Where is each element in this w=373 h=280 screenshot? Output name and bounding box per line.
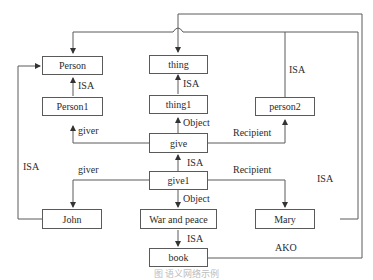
edge-label-john-person: ISA bbox=[23, 161, 39, 172]
edge-label-give1-war: Object bbox=[183, 193, 210, 204]
node-person: Person bbox=[42, 56, 103, 75]
edge-label-give1-mary: Recipient bbox=[233, 164, 271, 175]
node-person1: Person1 bbox=[42, 97, 103, 116]
edge-label-give-person1: giver bbox=[78, 125, 99, 136]
edge-label-give1-john: giver bbox=[78, 164, 99, 175]
node-give: give bbox=[149, 133, 208, 153]
node-mary: Mary bbox=[255, 209, 315, 229]
node-john: John bbox=[42, 209, 102, 229]
edge-label-give1-give: ISA bbox=[187, 157, 203, 168]
edge-label-person1-person: ISA bbox=[78, 80, 94, 91]
node-book: book bbox=[149, 248, 208, 267]
node-person2: person2 bbox=[255, 97, 315, 116]
edge-label-person2-person: ISA bbox=[289, 64, 305, 75]
edge-label-war-book: ISA bbox=[187, 233, 203, 244]
edge-label-give-person2: Recipient bbox=[233, 127, 271, 138]
figure-caption: 图 语义网络示例 bbox=[0, 267, 373, 280]
edge-label-mary-person: ISA bbox=[317, 173, 333, 184]
node-war-and-peace: War and peace bbox=[140, 209, 217, 229]
node-thing1: thing1 bbox=[149, 95, 208, 114]
edge-label-thing1-thing: ISA bbox=[183, 78, 199, 89]
node-thing: thing bbox=[149, 55, 208, 74]
node-give1: give1 bbox=[149, 171, 208, 190]
edge-label-book-thing: AKO bbox=[275, 242, 297, 253]
edge-label-give-thing1: Object bbox=[183, 117, 210, 128]
